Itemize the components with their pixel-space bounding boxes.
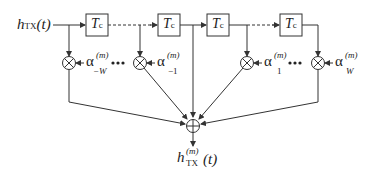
multiplier-3 xyxy=(241,57,254,70)
input-label-main: h xyxy=(17,16,25,32)
delay-label-1: Tc xyxy=(91,17,103,31)
delay-label-main: T xyxy=(212,16,220,31)
multiplier-1 xyxy=(63,57,76,70)
coef-sup: (m) xyxy=(274,51,287,60)
output-label-sub: TX xyxy=(186,159,198,168)
mult3-to-adder xyxy=(199,68,243,119)
coef-sub: W xyxy=(346,67,354,76)
delay-label-4: Tc xyxy=(285,17,297,31)
coefficient-label-1: α (m) −W xyxy=(86,54,94,69)
multiplier-4 xyxy=(312,57,325,70)
delay-label-main: T xyxy=(285,16,293,31)
delay-label-sub: c xyxy=(171,20,175,30)
input-label-sub: TX xyxy=(25,21,37,31)
output-label-main: h xyxy=(177,149,185,165)
delay-label-2: Tc xyxy=(163,17,175,31)
coefficient-label-3: α (m) 1 xyxy=(264,54,272,69)
delay-label-sub: c xyxy=(293,20,297,30)
multiplier-2 xyxy=(134,57,147,70)
coef-sub: 1 xyxy=(277,67,282,76)
delay-label-sub: c xyxy=(220,20,224,30)
ellipsis-left xyxy=(111,61,124,64)
delay-label-3: Tc xyxy=(212,17,224,31)
input-label: hTX(t) xyxy=(17,17,51,32)
delay-label-sub: c xyxy=(99,20,103,30)
ellipsis-right xyxy=(288,61,301,64)
coef-symbol: α xyxy=(264,53,272,69)
coef-symbol: α xyxy=(335,53,343,69)
delay-label-main: T xyxy=(91,16,99,31)
coef-sup: (m) xyxy=(345,51,358,60)
output-label-sup: (m) xyxy=(186,147,199,156)
mult2-to-adder xyxy=(144,68,187,119)
coefficient-label-2: α (m) −1 xyxy=(157,54,165,69)
coefficient-label-4: α (m) W xyxy=(335,54,343,69)
output-label: h (m) TX (t) xyxy=(177,150,185,165)
delay-label-main: T xyxy=(163,16,171,31)
output-label-arg: (t) xyxy=(203,152,217,167)
coef-sub: −W xyxy=(93,67,107,76)
coef-sup: (m) xyxy=(167,51,180,60)
input-label-arg: (t) xyxy=(37,16,51,32)
adder xyxy=(187,120,200,133)
coef-sub: −1 xyxy=(168,67,178,76)
coef-sup: (m) xyxy=(96,51,109,60)
coef-symbol: α xyxy=(157,53,165,69)
